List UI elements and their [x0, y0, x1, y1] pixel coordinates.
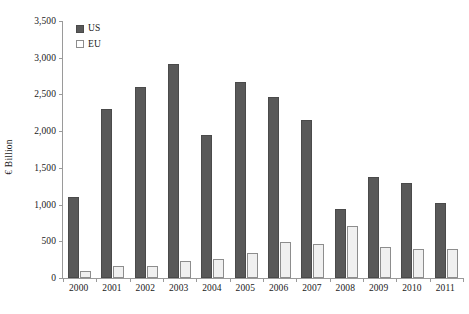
x-axis-tick-mark [396, 278, 397, 282]
chart-legend: US EU [76, 24, 101, 49]
bar-us-2005 [235, 82, 246, 278]
bar-us-2001 [101, 109, 112, 278]
y-axis-tick-mark [59, 278, 63, 279]
x-axis-tick-mark [363, 278, 364, 282]
x-axis-tick-mark [163, 278, 164, 282]
bar-group [330, 21, 363, 278]
bar-eu-2005 [247, 253, 258, 278]
bar-group [63, 21, 96, 278]
bar-group [96, 21, 129, 278]
x-axis-tick-mark [230, 278, 231, 282]
y-axis-tick-mark [59, 205, 63, 206]
legend-swatch-us-icon [76, 25, 84, 33]
y-axis-title-text: € Billion [4, 139, 14, 174]
x-axis-tick-label: 2010 [395, 283, 428, 303]
bar-group [230, 21, 263, 278]
x-axis-tick-label: 2004 [195, 283, 228, 303]
bar-eu-2000 [80, 271, 91, 278]
x-axis-tick-label: 2011 [429, 283, 462, 303]
x-axis-tick-mark [63, 278, 64, 282]
y-axis-tick-label: 3,000 [34, 53, 56, 63]
x-axis-tick-label: 2006 [262, 283, 295, 303]
bar-group [263, 21, 296, 278]
y-axis-tick-label: 2,500 [34, 89, 56, 99]
bar-eu-2011 [447, 249, 458, 278]
y-axis-tick-labels: 05001,0001,5002,0002,5003,0003,500 [16, 0, 60, 314]
x-axis-tick-mark [196, 278, 197, 282]
x-axis-tick-label: 2002 [129, 283, 162, 303]
legend-item-eu: EU [76, 40, 101, 50]
x-axis-tick-label: 2001 [95, 283, 128, 303]
y-axis-tick-label: 500 [41, 236, 56, 246]
bar-us-2010 [401, 183, 412, 278]
bar-us-2006 [268, 97, 279, 278]
bar-us-2002 [135, 87, 146, 278]
bar-group [296, 21, 329, 278]
bar-chart: € Billion 05001,0001,5002,0002,5003,0003… [0, 0, 469, 314]
x-axis-tick-mark [130, 278, 131, 282]
bar-eu-2001 [113, 266, 124, 278]
x-axis-tick-mark [263, 278, 264, 282]
bar-eu-2002 [147, 266, 158, 278]
legend-label-us: US [88, 24, 100, 34]
y-axis-tick-label: 3,500 [34, 16, 56, 26]
bar-group [163, 21, 196, 278]
legend-label-eu: EU [88, 40, 101, 50]
bar-eu-2010 [413, 249, 424, 278]
bar-eu-2008 [347, 226, 358, 279]
bar-us-2011 [435, 203, 446, 278]
y-axis-tick-mark [59, 94, 63, 95]
y-axis-tick-label: 2,000 [34, 126, 56, 136]
bars-layer [63, 21, 463, 278]
x-axis-tick-label: 2008 [329, 283, 362, 303]
bar-group [430, 21, 463, 278]
x-axis-tick-label: 2007 [295, 283, 328, 303]
x-axis-tick-mark [96, 278, 97, 282]
x-axis-tick-label: 2000 [62, 283, 95, 303]
bar-eu-2007 [313, 244, 324, 278]
x-axis-tick-labels: 2000200120022003200420052006200720082009… [62, 283, 462, 303]
bar-eu-2004 [213, 259, 224, 278]
x-axis-tick-mark [430, 278, 431, 282]
y-axis-tick-mark [59, 58, 63, 59]
bar-eu-2006 [280, 242, 291, 278]
bar-us-2000 [68, 197, 79, 279]
bar-us-2004 [201, 135, 212, 278]
bar-us-2009 [368, 177, 379, 278]
bar-us-2007 [301, 120, 312, 278]
bar-us-2003 [168, 64, 179, 278]
x-axis-tick-mark [330, 278, 331, 282]
bar-eu-2009 [380, 247, 391, 278]
x-axis-tick-mark [296, 278, 297, 282]
bar-group [396, 21, 429, 278]
y-axis-tick-label: 0 [51, 273, 56, 283]
y-axis-tick-mark [59, 21, 63, 22]
x-axis-tick-label: 2009 [362, 283, 395, 303]
bar-us-2008 [335, 209, 346, 278]
bar-group [363, 21, 396, 278]
y-axis-tick-label: 1,500 [34, 163, 56, 173]
y-axis-tick-mark [59, 131, 63, 132]
bar-group [130, 21, 163, 278]
legend-item-us: US [76, 24, 101, 34]
y-axis-tick-mark [59, 241, 63, 242]
x-axis-tick-label: 2005 [229, 283, 262, 303]
y-axis-tick-label: 1,000 [34, 200, 56, 210]
x-axis-tick-mark [463, 278, 464, 282]
legend-swatch-eu-icon [76, 40, 84, 48]
bar-group [196, 21, 229, 278]
x-axis-tick-label: 2003 [162, 283, 195, 303]
plot-area [62, 21, 463, 279]
y-axis-tick-mark [59, 168, 63, 169]
bar-eu-2003 [180, 261, 191, 278]
